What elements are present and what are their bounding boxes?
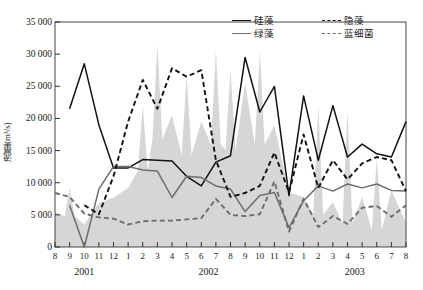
plot-canvas — [0, 0, 423, 290]
chart-figure: 流量(m³/s) 05 00010 00015 00020 00025 0003… — [0, 0, 423, 290]
flow-background-area — [55, 45, 406, 248]
